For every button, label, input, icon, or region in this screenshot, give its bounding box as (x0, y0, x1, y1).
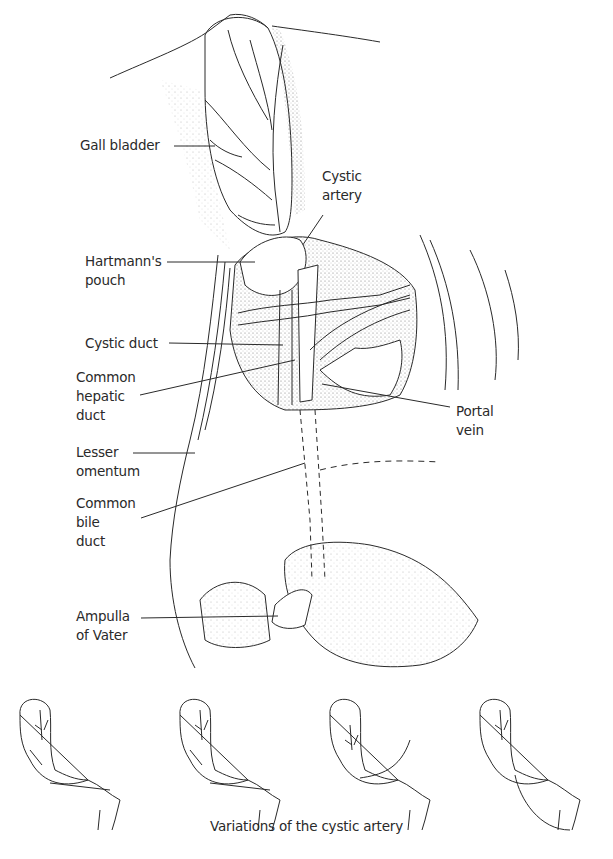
label-lesser-omentum: Lesser omentum (76, 443, 140, 481)
variations-caption: Variations of the cystic artery (0, 818, 613, 834)
label-cystic-artery: Cystic artery (322, 167, 362, 205)
anatomy-illustration (0, 0, 613, 859)
label-gall-bladder: Gall bladder (80, 136, 160, 155)
label-common-bile-duct: Common bile duct (76, 494, 136, 551)
label-hartmanns-pouch: Hartmann's pouch (85, 252, 162, 290)
label-common-hepatic-duct: Common hepatic duct (76, 368, 136, 425)
cystic-artery-variations (20, 699, 580, 830)
label-cystic-duct: Cystic duct (85, 334, 158, 353)
label-portal-vein: Portal vein (456, 402, 494, 440)
label-ampulla-of-vater: Ampulla of Vater (76, 607, 130, 645)
